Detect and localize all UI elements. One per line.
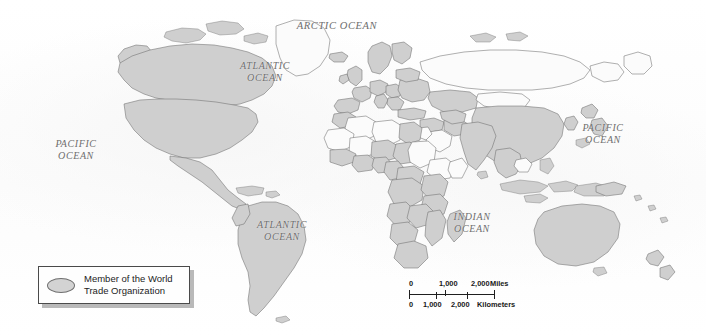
- scale-km-unit: Kilometers: [477, 300, 515, 309]
- scale-kilometers-labels: 0 1,000 2,000 Kilometers: [409, 300, 517, 311]
- scale-tick-right: [494, 290, 495, 299]
- scale-km-tick-1000: 1,000: [423, 300, 442, 309]
- legend-label: Member of the World Trade Organization: [84, 273, 173, 297]
- scale-tick-mid-mi: [445, 290, 446, 296]
- scale-rule-graphic: [409, 290, 517, 299]
- region-russia-north-asia: [420, 32, 652, 90]
- region-east-asia: [460, 92, 612, 203]
- region-europe: [329, 42, 430, 120]
- legend-swatch-member-oval: [47, 278, 75, 293]
- scale-miles-tick-2000: 2,000: [471, 279, 490, 288]
- region-south-america: [232, 202, 306, 323]
- world-map-figure: .member { fill:#cfcfcf; stroke:#6e6e6e; …: [0, 0, 706, 336]
- scale-axis-line: [409, 294, 495, 295]
- map-scale-bar: 0 1,000 2,000 Miles 0 1,000 2,000 Kilome…: [409, 279, 517, 311]
- scale-miles-unit: Miles: [490, 279, 508, 288]
- region-north-america: [118, 20, 330, 210]
- map-legend: Member of the World Trade Organization: [38, 266, 190, 304]
- region-oceania: [534, 182, 675, 280]
- scale-km-tick-0: 0: [409, 300, 413, 309]
- scale-km-tick-2000: 2,000: [451, 300, 470, 309]
- scale-tick-mid-km: [436, 292, 437, 299]
- scale-miles-tick-1000: 1,000: [439, 279, 458, 288]
- scale-tick-left: [409, 290, 410, 299]
- scale-miles-tick-0: 0: [409, 279, 413, 288]
- scale-tick-km-end: [467, 292, 468, 299]
- scale-miles-labels: 0 1,000 2,000 Miles: [409, 279, 517, 290]
